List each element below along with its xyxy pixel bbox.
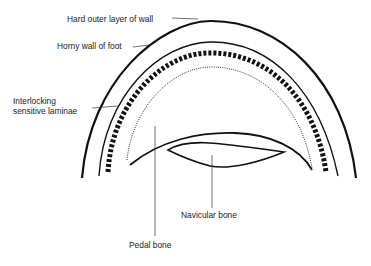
label-outer-wall: Hard outer layer of wall [67, 14, 153, 24]
laminae-zigzag [108, 53, 326, 172]
label-pedal: Pedal bone [129, 240, 171, 250]
navicular-bone-shape [168, 143, 284, 167]
label-laminae-2: sensitive laminae [13, 106, 77, 116]
label-horny-wall: Horny wall of foot [57, 41, 122, 51]
label-navicular: Navicular bone [181, 210, 237, 220]
label-laminae-1: Interlocking [13, 96, 56, 106]
hoof-diagram [0, 0, 371, 266]
